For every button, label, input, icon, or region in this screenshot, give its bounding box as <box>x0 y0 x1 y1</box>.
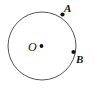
point-b-label: B <box>75 53 83 65</box>
geometry-canvas: O A B <box>0 0 94 90</box>
point-a-label: A <box>63 2 71 14</box>
point-b-dot <box>71 50 75 54</box>
center-label: O <box>28 40 37 54</box>
geometry-figure: O A B <box>0 0 94 90</box>
center-dot <box>40 44 44 48</box>
